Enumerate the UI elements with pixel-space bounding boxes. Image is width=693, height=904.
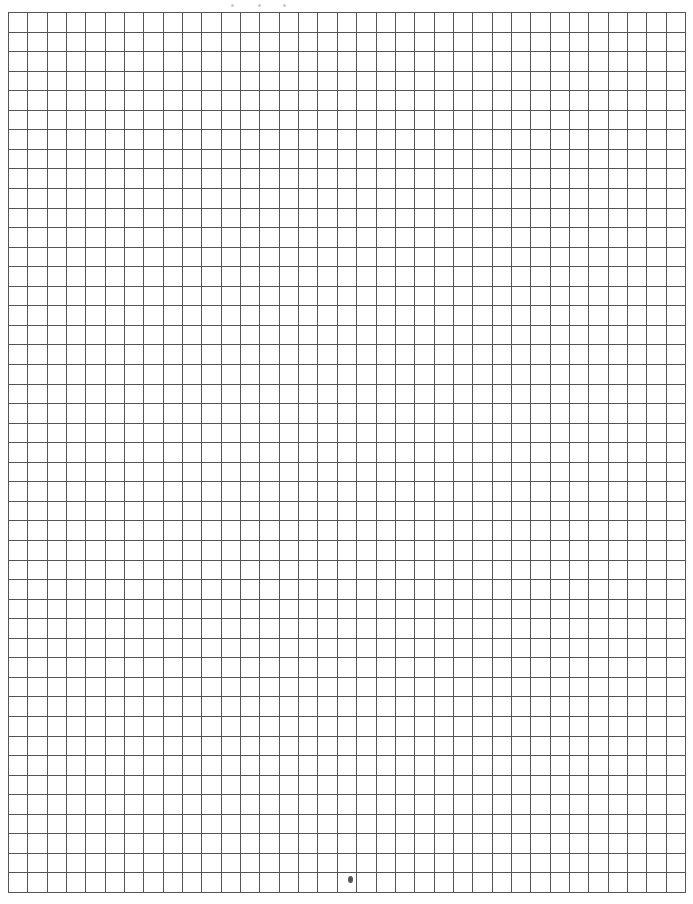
scan-mark bbox=[231, 4, 234, 7]
graph-paper-page bbox=[0, 0, 693, 904]
scan-mark bbox=[258, 4, 261, 7]
pencil-dot-mark bbox=[348, 876, 353, 883]
scan-mark bbox=[283, 4, 286, 7]
header-scan-marks bbox=[225, 2, 305, 10]
grid bbox=[8, 12, 687, 894]
